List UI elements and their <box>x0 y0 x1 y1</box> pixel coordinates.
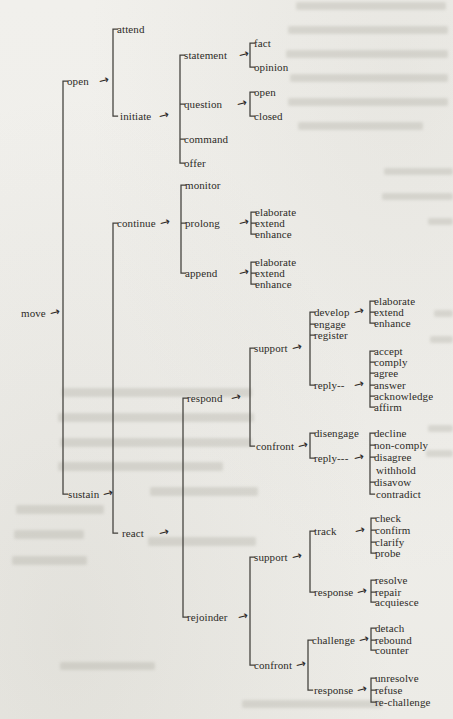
node-command: command <box>184 132 228 145</box>
node-label: question <box>184 98 222 110</box>
node-label: enhance <box>255 228 292 240</box>
bracket <box>250 348 255 446</box>
node-counter: counter <box>375 643 409 656</box>
node-probe: probe <box>375 546 401 559</box>
node-disengage: disengage <box>314 426 359 439</box>
node-label: challenge <box>312 634 355 646</box>
node-label: disagree <box>374 451 411 463</box>
node-label: prolong <box>185 217 220 229</box>
node-question: question→ <box>184 97 247 110</box>
node-label: open <box>254 86 276 98</box>
node-label: confront <box>254 659 292 671</box>
node-contradict: contradict <box>376 487 421 500</box>
node-label: sustain <box>68 488 99 500</box>
node-closed: closed <box>254 109 283 122</box>
node-label: check <box>375 512 401 524</box>
node-label: track <box>314 525 336 537</box>
node-enhance: enhance <box>255 277 292 290</box>
arrow-icon: → <box>237 46 250 60</box>
node-challenge: challenge→ <box>312 633 361 646</box>
node-label: react <box>122 527 144 539</box>
node-label: develop <box>314 306 350 318</box>
node-label: confront <box>256 440 294 452</box>
arrow-icon: → <box>236 608 249 622</box>
node-label: opinion <box>254 61 288 73</box>
node-label: support <box>254 342 288 354</box>
node-label: enhance <box>374 317 411 329</box>
node-label: reply--- <box>314 452 348 464</box>
node-label: detach <box>375 622 404 634</box>
arrow-icon: → <box>229 389 242 403</box>
node-label: support <box>254 551 288 563</box>
node-fact: fact <box>254 36 271 49</box>
node-label: non-comply <box>374 439 428 451</box>
node-label: reply-- <box>314 379 345 391</box>
node-disagree: disagree <box>374 450 411 463</box>
node-offer: offer <box>184 156 206 169</box>
node-opinion: opinion <box>254 60 288 73</box>
node-statement: statement→ <box>184 48 249 61</box>
bracket <box>183 398 188 617</box>
arrow-icon: → <box>97 72 110 86</box>
node-label: disavow <box>374 476 411 488</box>
node-re-challenge: re-challenge <box>375 695 431 708</box>
node-prolong: prolong→ <box>185 216 249 229</box>
arrow-icon: → <box>352 303 365 317</box>
node-label: withhold <box>376 464 416 476</box>
node-label: initiate <box>120 110 151 122</box>
node-react: react→ <box>122 526 169 539</box>
node-move: move→ <box>21 306 59 319</box>
bracket <box>63 81 68 494</box>
speech-function-tree-diagram: attendfactopinionstatement→openclosedque… <box>0 0 453 719</box>
node-label: counter <box>375 644 409 656</box>
arrow-icon: → <box>352 449 365 463</box>
node-acquiesce: acquiesce <box>375 595 419 608</box>
node-label: rejoinder <box>187 611 228 623</box>
node-label: response <box>314 586 353 598</box>
arrow-icon: → <box>353 522 366 536</box>
node-label: monitor <box>185 179 221 191</box>
node-sustain: sustain→ <box>68 487 112 500</box>
node-initiate: initiate→ <box>120 109 169 122</box>
node-append: append→ <box>185 266 249 279</box>
node-support: support→ <box>254 550 298 563</box>
arrow-icon: → <box>352 376 365 390</box>
node-label: respond <box>187 392 223 404</box>
node-monitor: monitor <box>185 178 221 191</box>
node-confront: confront→ <box>256 439 303 452</box>
arrow-icon: → <box>237 214 250 228</box>
node-label: open <box>67 75 89 87</box>
node-label: command <box>184 133 228 145</box>
node-label: closed <box>254 110 283 122</box>
node-register: register <box>314 328 348 341</box>
bracket <box>113 29 118 116</box>
node-label: acquiesce <box>375 596 419 608</box>
arrow-icon: → <box>157 107 170 121</box>
node-respond: respond→ <box>187 391 241 404</box>
node-open: open→ <box>67 74 109 87</box>
node-label: agree <box>374 367 398 379</box>
bracket <box>308 640 313 690</box>
node-label: response <box>314 684 353 696</box>
node-label: affirm <box>374 401 402 413</box>
node-enhance: enhance <box>374 316 411 329</box>
node-rejoinder: rejoinder→ <box>187 610 248 623</box>
bracket <box>113 223 118 533</box>
arrow-icon: → <box>157 524 170 538</box>
node-confront: confront→ <box>254 658 301 671</box>
node-label: refuse <box>375 684 402 696</box>
node-label: fact <box>254 37 271 49</box>
node-track: track→ <box>314 524 365 537</box>
node-label: contradict <box>376 488 421 500</box>
node-label: disengage <box>314 427 359 439</box>
node-label: re-challenge <box>375 696 431 708</box>
node-response: response→ <box>314 585 365 598</box>
node-label: resolve <box>375 574 407 586</box>
bracket <box>310 531 315 592</box>
node-continue: continue→ <box>117 216 169 229</box>
node-enhance: enhance <box>255 227 292 240</box>
node-reply: reply--→ <box>314 378 364 391</box>
node-support: support→ <box>254 341 298 354</box>
arrow-icon: → <box>158 214 171 228</box>
bracket <box>250 557 255 665</box>
